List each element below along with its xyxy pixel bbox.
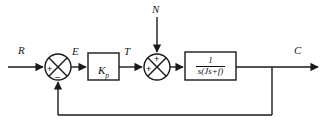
transfer-function-denominator: s(Js+f) [196,67,226,76]
error-junction-minus-sign: – [55,73,60,82]
disturbance-junction-plus-sign-top: + [154,55,159,64]
label-disturbance-input: N [152,3,159,15]
plant-transfer-function-label: 1 s(Js+f) [185,56,236,78]
gain-subscript: p [105,71,109,80]
label-output-signal: C [294,44,301,56]
error-junction-plus-sign: + [47,65,52,74]
disturbance-junction-plus-sign-left: + [146,65,151,74]
label-error-signal: E [72,45,79,57]
block-diagram-canvas: R E T N C + – + + Kp 1 s(Js+f) [0,0,327,129]
label-reference-input: R [18,44,25,56]
transfer-function-numerator: 1 [196,56,226,65]
proportional-gain-block-label: Kp [88,60,119,80]
label-torque-signal: T [124,45,130,57]
